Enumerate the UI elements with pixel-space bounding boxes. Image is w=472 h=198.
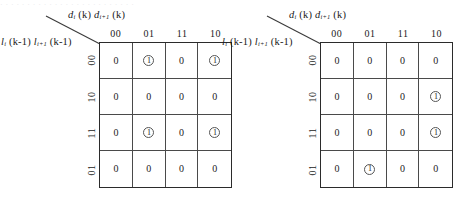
kmap-cell: 0 bbox=[387, 79, 420, 115]
kmap-cell: 1 bbox=[198, 43, 231, 79]
kmap-cell: 0 bbox=[321, 115, 354, 151]
row-header: 01 bbox=[84, 152, 98, 189]
row-header: 10 bbox=[305, 79, 319, 116]
kmap-right-row-headers: 00 10 11 01 bbox=[305, 42, 319, 188]
cell-value-circled: 1 bbox=[364, 164, 375, 175]
cell-value-circled: 1 bbox=[209, 55, 220, 66]
cell-value: 0 bbox=[433, 164, 438, 174]
row-header: 01 bbox=[305, 152, 319, 189]
cell-value: 0 bbox=[367, 56, 372, 66]
kmap-cell: 1 bbox=[419, 115, 452, 151]
kmap-right: di (k) di+1 (k) li (k-1) li+1 (k-1) 00 0… bbox=[236, 0, 472, 198]
cell-value-circled: 1 bbox=[430, 91, 441, 102]
cell-value: 0 bbox=[113, 92, 118, 102]
cell-value: 0 bbox=[334, 164, 339, 174]
kmap-cell: 0 bbox=[133, 151, 166, 187]
kmap-cell: 0 bbox=[387, 115, 420, 151]
kmap-cell: 0 bbox=[166, 43, 199, 79]
cell-value-circled: 1 bbox=[209, 127, 220, 138]
cell-value: 0 bbox=[146, 92, 151, 102]
kmap-cell: 0 bbox=[419, 151, 452, 187]
kmap-left-grid: 0101000001010000 bbox=[99, 42, 232, 188]
column-header: 11 bbox=[387, 28, 420, 39]
column-header: 01 bbox=[353, 28, 386, 39]
kmap-cell: 0 bbox=[166, 115, 199, 151]
kmap-cell: 1 bbox=[419, 79, 452, 115]
cell-value: 0 bbox=[400, 56, 405, 66]
kmap-cell: 1 bbox=[133, 115, 166, 151]
kmap-cell: 0 bbox=[321, 79, 354, 115]
cell-value-circled: 1 bbox=[143, 127, 154, 138]
cell-value: 0 bbox=[433, 56, 438, 66]
kmap-cell: 0 bbox=[419, 43, 452, 79]
kmap-cell: 0 bbox=[166, 151, 199, 187]
row-header: 00 bbox=[305, 42, 319, 79]
row-header: 11 bbox=[84, 115, 98, 152]
cell-value: 0 bbox=[179, 92, 184, 102]
cell-value: 0 bbox=[113, 164, 118, 174]
row-header: 11 bbox=[305, 115, 319, 152]
cell-value: 0 bbox=[334, 128, 339, 138]
kmap-cell: 0 bbox=[100, 151, 133, 187]
cell-value: 0 bbox=[179, 128, 184, 138]
cell-value: 0 bbox=[179, 56, 184, 66]
cell-value: 0 bbox=[400, 92, 405, 102]
kmap-cell: 0 bbox=[166, 79, 199, 115]
cell-value: 0 bbox=[367, 92, 372, 102]
cell-value: 0 bbox=[334, 56, 339, 66]
column-header: 10 bbox=[420, 28, 453, 39]
kmap-cell: 0 bbox=[321, 151, 354, 187]
kmap-left-column-headers: 00 01 11 10 bbox=[99, 28, 232, 39]
kmap-cell: 0 bbox=[198, 151, 231, 187]
kmap-cell: 1 bbox=[133, 43, 166, 79]
kmap-cell: 0 bbox=[198, 79, 231, 115]
cell-value: 0 bbox=[146, 164, 151, 174]
cell-value-circled: 1 bbox=[143, 55, 154, 66]
cell-value: 0 bbox=[179, 164, 184, 174]
cell-value: 0 bbox=[212, 92, 217, 102]
kmap-cell: 0 bbox=[100, 115, 133, 151]
cell-value: 0 bbox=[400, 128, 405, 138]
kmap-left-row-headers: 00 10 11 01 bbox=[84, 42, 98, 188]
kmap-cell: 0 bbox=[321, 43, 354, 79]
kmap-cell: 0 bbox=[100, 43, 133, 79]
cell-value: 0 bbox=[113, 128, 118, 138]
kmap-cell: 0 bbox=[354, 115, 387, 151]
cell-value-circled: 1 bbox=[430, 127, 441, 138]
kmap-cell: 0 bbox=[387, 151, 420, 187]
kmap-right-column-headers: 00 01 11 10 bbox=[320, 28, 453, 39]
kmap-cell: 0 bbox=[354, 79, 387, 115]
kmap-left: di (k) di+1 (k) li (k-1) li+1 (k-1) 00 0… bbox=[0, 0, 236, 198]
column-header: 01 bbox=[132, 28, 165, 39]
kmap-right-grid: 0000000100010100 bbox=[320, 42, 453, 188]
cell-value: 0 bbox=[113, 56, 118, 66]
kmap-cell: 0 bbox=[387, 43, 420, 79]
kmap-cell: 0 bbox=[133, 79, 166, 115]
row-header: 10 bbox=[84, 79, 98, 116]
figure-canvas: · · · · · · · · · · · · · · · · · · · · … bbox=[0, 0, 472, 198]
cell-value: 0 bbox=[400, 164, 405, 174]
column-header: 00 bbox=[99, 28, 132, 39]
kmap-cell: 0 bbox=[100, 79, 133, 115]
cell-value: 0 bbox=[212, 164, 217, 174]
column-header: 00 bbox=[320, 28, 353, 39]
kmap-cell: 1 bbox=[354, 151, 387, 187]
row-header: 00 bbox=[84, 42, 98, 79]
cell-value: 0 bbox=[334, 92, 339, 102]
column-header: 11 bbox=[166, 28, 199, 39]
cell-value: 0 bbox=[367, 128, 372, 138]
kmap-cell: 0 bbox=[354, 43, 387, 79]
kmap-cell: 1 bbox=[198, 115, 231, 151]
